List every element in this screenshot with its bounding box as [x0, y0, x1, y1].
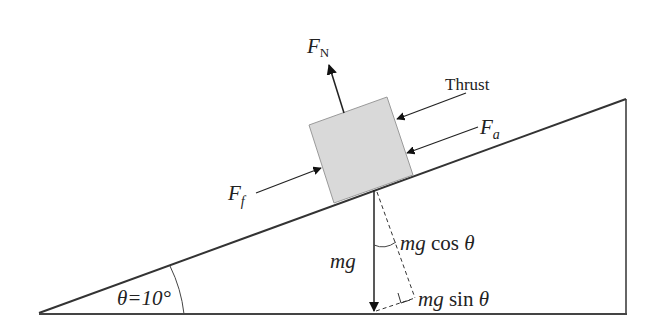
normal-force-label: FN	[306, 34, 330, 60]
weight-angle-arc	[374, 242, 396, 247]
friction-label: Ff	[227, 181, 247, 209]
normal-force-arrow	[329, 65, 344, 113]
friction-arrow	[256, 168, 321, 193]
weight-parallel-label: mg sin θ	[418, 287, 489, 311]
weight-perp-label: mg cos θ	[400, 231, 475, 255]
thrust-arrow	[397, 93, 466, 119]
angle-label: θ=10°	[117, 286, 171, 310]
inclined-plane-diagram: θ=10° FN Thrust Fa Ff mg mg cos θ mg sin…	[0, 0, 666, 329]
air-resistance-arrow	[407, 127, 478, 153]
weight-label: mg	[330, 249, 356, 273]
air-resistance-label: Fa	[479, 115, 500, 142]
thrust-label: Thrust	[445, 75, 490, 94]
block	[309, 97, 413, 203]
angle-arc	[170, 266, 184, 314]
right-angle-marker	[398, 293, 410, 303]
